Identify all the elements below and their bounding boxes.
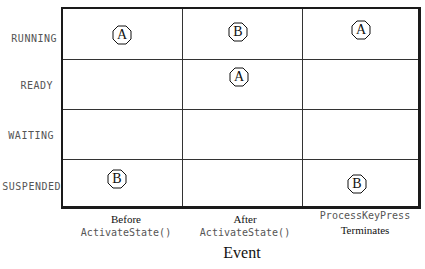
marker-label: B <box>107 169 127 189</box>
x-axis-title: Event <box>223 244 260 262</box>
column-label-line2: Terminates <box>305 223 425 237</box>
marker-label: A <box>351 20 371 40</box>
column-label-line1: After <box>185 212 305 226</box>
column-label-line1: ProcessKeyPress <box>305 209 425 223</box>
column-label-line2: ActivateState() <box>66 226 186 240</box>
column-divider <box>182 9 183 206</box>
column-label-after-activate: After ActivateState() <box>185 212 305 240</box>
column-divider <box>302 9 303 206</box>
row-label-waiting: WAITING <box>8 130 54 141</box>
row-label-ready: READY <box>20 80 53 91</box>
row-label-running: RUNNING <box>11 33 57 44</box>
octagon-marker: A <box>229 67 249 87</box>
octagon-marker: B <box>347 174 367 194</box>
marker-label: A <box>229 67 249 87</box>
marker-label: B <box>347 174 367 194</box>
marker-label: A <box>112 25 132 45</box>
octagon-marker: B <box>228 22 248 42</box>
column-label-keypress-terminates: ProcessKeyPress Terminates <box>305 209 425 237</box>
octagon-marker: A <box>112 25 132 45</box>
row-divider <box>63 109 418 110</box>
octagon-marker: A <box>351 20 371 40</box>
row-divider <box>63 59 418 60</box>
column-label-line1: Before <box>66 212 186 226</box>
row-divider <box>63 159 418 160</box>
column-label-before-activate: Before ActivateState() <box>66 212 186 240</box>
marker-label: B <box>228 22 248 42</box>
row-label-suspended: SUSPENDED <box>2 181 61 192</box>
octagon-marker: B <box>107 169 127 189</box>
column-label-line2: ActivateState() <box>185 226 305 240</box>
